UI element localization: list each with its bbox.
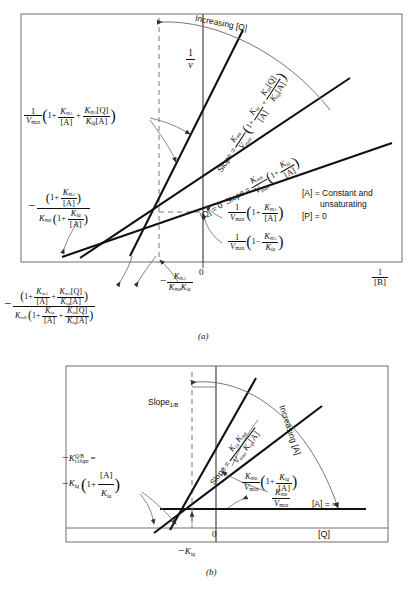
panel-a-intercept-q0-label: 1Vmax(1+ KmA[A]) — [228, 203, 284, 223]
panel-b-leader-x-intercept — [140, 494, 154, 524]
panel-b-x-axis-label: [Q] — [318, 530, 330, 539]
panel-a-leader-x-intercept-upper — [120, 256, 132, 282]
panel-a-y-axis-label: 1v — [186, 48, 195, 70]
panel-a-condition-line1: [A] = Constant and — [302, 188, 373, 199]
panel-b-tag: (b) — [206, 568, 217, 577]
panel-b-increasing-label: Increasing [A] — [278, 404, 303, 456]
panel-a-conditions: [A] = Constant and unsaturating [P] = 0 — [302, 188, 373, 222]
panel-a-leader-intercept-upper2 — [150, 120, 176, 162]
panel-a-x-axis-label: 1[B] — [372, 268, 388, 288]
panel-b-x-intercept-tick-label: −Kiq — [178, 544, 195, 557]
panel-b-leader-asymptote-intercept — [228, 499, 243, 508]
panel-b-leader-x-intercept-2 — [142, 492, 176, 524]
panel-a-intercept-upper-label: 1Vmax(1+ KmA[A] + KmA[Q]Kiq[A]) — [24, 106, 116, 127]
panel-a-origin-label: 0 — [199, 268, 204, 277]
panel-a-increasing-label: Increasing [Q] — [194, 14, 248, 33]
panel-a-tag: (a) — [198, 332, 209, 341]
panel-a-slope-q0-prefix: [Q] = 0 — [199, 201, 224, 221]
panel-b-asymptote-intercept-label: KmBVmax — [272, 488, 290, 509]
panel-a-x-intercept-q0-label: − (1+ KmA[A]) KmB (1+ Kia[A]) — [28, 188, 90, 229]
panel-a-leader-intercept-upper — [150, 118, 190, 134]
panel-a-x-intercept-upper-label: − (1+ KmA[A] + KmA[Q]Kiq[A]) KmB (1+ Kia… — [4, 288, 95, 325]
panel-a-condition-line3: [P] = 0 — [302, 211, 373, 222]
panel-a-intercept-common-label: 1Vmax(1− KmAKia) — [228, 232, 284, 253]
panel-a-condition-line2: unsaturating — [302, 199, 373, 210]
panel-b-origin-label: 0 — [212, 530, 217, 539]
panel-b-x-intercept-label: −KQ/Bi slope = −Kiq (1+ [A]Kia) — [62, 446, 120, 502]
panel-b-asymptote-label: [A] = ∞ — [312, 500, 338, 509]
panel-a-x-crossover-label: −KmAKmBKia — [160, 272, 193, 293]
figure-enzyme-kinetics-plots: 1v Increasing [Q] 1Vmax(1+ KmA[A] + KmA[… — [0, 0, 420, 592]
panel-a-leader-x-intercept-upper-b — [138, 256, 156, 282]
panel-b-line-shallow — [154, 406, 322, 533]
panel-b-y-axis-label: Slope1/B — [148, 398, 178, 408]
